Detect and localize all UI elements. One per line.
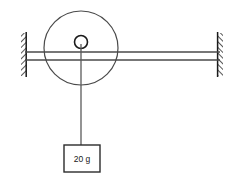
right-wall-support [218,32,224,77]
pulley-diagram-figure: 20 g [0,0,244,176]
left-wall-support [21,32,27,77]
diagram-canvas: 20 g [0,0,244,176]
mass-block-label: 20 g [74,154,91,164]
horizontal-string [25,52,220,60]
hanging-mass-block: 20 g [64,145,100,172]
